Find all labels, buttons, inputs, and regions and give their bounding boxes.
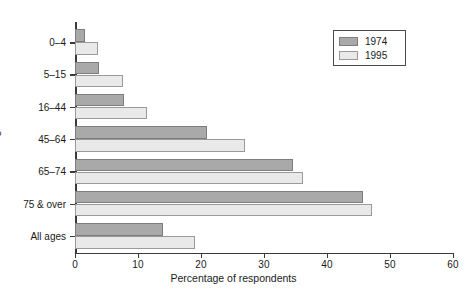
x-axis-tick (390, 253, 391, 258)
legend-swatch-icon-1974 (339, 37, 358, 46)
y-axis-tick (70, 236, 75, 237)
y-axis-tick (70, 171, 75, 172)
legend-entry-1995: 1995 (339, 49, 400, 62)
bar-1974-75-over (75, 191, 363, 204)
y-axis-label-5-15: 5–15 (0, 69, 66, 80)
y-axis-tick (70, 139, 75, 140)
bar-1995-all-ages (75, 236, 195, 249)
y-axis-title: Age (0, 125, 1, 144)
x-axis-tick (264, 253, 265, 258)
y-axis-label-all-ages: All ages (0, 230, 66, 241)
bar-1995-75-over (75, 204, 372, 217)
bar-1974-5-15 (75, 62, 99, 75)
page-caption-fragment (0, 286, 467, 296)
x-axis-tick (138, 253, 139, 258)
x-axis-tick (327, 253, 328, 258)
x-axis-tick-label: 60 (447, 259, 458, 270)
legend-swatch-icon-1995 (339, 51, 358, 60)
bar-1974-45-64 (75, 126, 207, 139)
x-axis-tick-label: 0 (72, 259, 78, 270)
x-axis-tick (75, 253, 76, 258)
bar-1995-5-15 (75, 75, 123, 88)
y-axis-label-0-4: 0–4 (0, 37, 66, 48)
legend-label-1974: 1974 (365, 37, 387, 47)
y-axis-tick (70, 42, 75, 43)
y-axis-label-75-over: 75 & over (0, 198, 66, 209)
y-axis-label-16-44: 16–44 (0, 101, 66, 112)
bar-1995-65-74 (75, 172, 303, 185)
x-axis-tick-label: 20 (195, 259, 206, 270)
y-axis-tick (70, 204, 75, 205)
x-axis-tick (453, 253, 454, 258)
x-axis-tick-label: 10 (132, 259, 143, 270)
bar-1974-0-4 (75, 29, 85, 42)
bar-1995-16-44 (75, 107, 147, 120)
x-axis-tick-label: 40 (321, 259, 332, 270)
bar-chart-figure: 0102030405060 0–45–1516–4445–6465–7475 &… (0, 0, 467, 296)
legend: 1974 1995 (333, 30, 406, 66)
x-axis-tick-label: 30 (258, 259, 269, 270)
x-axis-title: Percentage of respondents (0, 272, 467, 284)
bar-1974-65-74 (75, 159, 293, 172)
legend-label-1995: 1995 (365, 51, 387, 61)
bar-1995-45-64 (75, 139, 245, 152)
legend-entry-1974: 1974 (339, 35, 400, 48)
y-axis-tick (70, 74, 75, 75)
y-axis-label-65-74: 65–74 (0, 166, 66, 177)
y-axis-label-45-64: 45–64 (0, 134, 66, 145)
y-axis-tick (70, 107, 75, 108)
bar-1974-16-44 (75, 94, 124, 107)
bar-1995-0-4 (75, 42, 98, 55)
bar-1974-all-ages (75, 223, 163, 236)
x-axis-tick-label: 50 (384, 259, 395, 270)
x-axis-tick (201, 253, 202, 258)
